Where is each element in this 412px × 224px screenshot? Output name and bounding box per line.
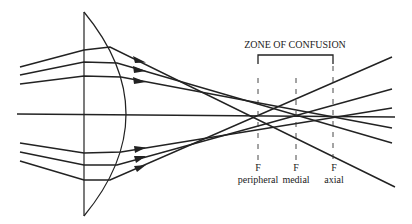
arrowhead-icon	[133, 56, 146, 63]
arrowheads	[133, 56, 146, 172]
rays	[20, 47, 395, 187]
focal-letter-medial: F	[293, 162, 299, 173]
focal-name-medial: medial	[282, 174, 309, 185]
arrowhead-icon	[133, 66, 146, 73]
spherical-aberration-diagram: ZONE OF CONFUSION F peripheral F medial …	[0, 0, 412, 224]
ray-upper-medial	[20, 62, 392, 143]
focal-letter-peripheral: F	[255, 162, 261, 173]
zone-bracket	[258, 55, 333, 64]
focal-name-axial: axial	[324, 174, 344, 185]
ray-upper-axial	[20, 76, 392, 128]
arrowhead-icon	[133, 77, 146, 84]
arrowhead-icon	[134, 156, 146, 163]
zone-title: ZONE OF CONFUSION	[244, 39, 346, 50]
focal-labels: F peripheral F medial F axial	[238, 162, 344, 185]
focal-name-peripheral: peripheral	[238, 174, 279, 185]
arrowhead-icon	[134, 146, 146, 153]
focal-lines	[258, 66, 333, 160]
arrowhead-icon	[134, 165, 146, 172]
focal-letter-axial: F	[331, 162, 337, 173]
